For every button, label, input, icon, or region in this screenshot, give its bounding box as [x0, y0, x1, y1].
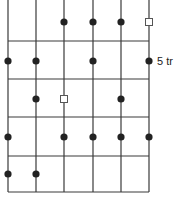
filled-dot-r2-c2: [32, 57, 39, 64]
grid-lines: [8, 0, 149, 192]
filled-dot-r1-c4: [89, 18, 96, 25]
hollow-square-r3-c3: [61, 96, 68, 103]
filled-dot-r3-c5: [117, 95, 124, 102]
filled-dot-r2-c6: [145, 57, 152, 64]
filled-dot-r2-c1: [4, 57, 11, 64]
filled-dot-r2-c4: [89, 57, 96, 64]
filled-dot-r1-c5: [117, 18, 124, 25]
filled-dot-r4-c6: [145, 133, 152, 140]
filled-dot-r4-c3: [60, 133, 67, 140]
filled-dot-r4-c4: [89, 133, 96, 140]
filled-dot-r4-c5: [117, 133, 124, 140]
filled-dot-r5-c1: [4, 170, 11, 177]
row-label-2: 5 tr: [157, 55, 173, 67]
grid-markers: [4, 18, 152, 177]
grid-diagram: 5 tr: [0, 0, 176, 197]
filled-dot-r3-c2: [32, 95, 39, 102]
filled-dot-r4-c1: [4, 133, 11, 140]
filled-dot-r5-c2: [32, 170, 39, 177]
filled-dot-r1-c3: [60, 18, 67, 25]
row-labels: 5 tr: [157, 55, 173, 67]
hollow-square-r1-c6: [146, 19, 153, 26]
